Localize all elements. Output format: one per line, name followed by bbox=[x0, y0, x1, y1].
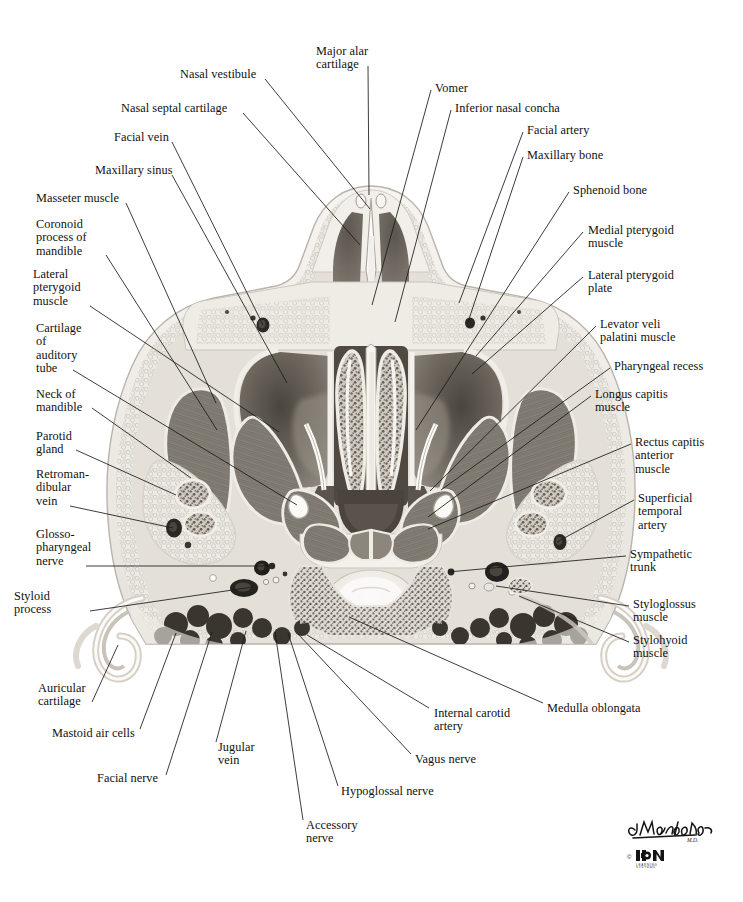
label-stylohyoid-muscle: Stylohyoid muscle bbox=[633, 634, 687, 661]
label-rectus-capitis-anterior-muscle: Rectus capitis anterior muscle bbox=[635, 436, 704, 476]
label-styloid-process: Styloid process bbox=[14, 590, 51, 617]
label-cartilage-of-auditory-tube: Cartilage of auditory tube bbox=[36, 322, 82, 376]
svg-text:©: © bbox=[627, 854, 632, 860]
label-accessory-nerve: Accessory nerve bbox=[306, 819, 358, 846]
label-sphenoid-bone: Sphenoid bone bbox=[573, 184, 647, 197]
anatomy-illustration bbox=[0, 0, 743, 902]
label-nasal-vestibule: Nasal vestibule bbox=[180, 68, 256, 81]
label-nasal-septal-cartilage: Nasal septal cartilage bbox=[121, 102, 227, 115]
label-parotid-gland: Parotid gland bbox=[36, 430, 72, 457]
label-lateral-pterygoid-plate: Lateral pterygoid plate bbox=[588, 269, 674, 296]
label-facial-artery: Facial artery bbox=[527, 124, 589, 137]
label-retromandibular-vein: Retroman- dibular vein bbox=[36, 468, 89, 508]
label-lateral-pterygoid-muscle: Lateral pterygoid muscle bbox=[33, 268, 81, 308]
svg-text:M.D.: M.D. bbox=[686, 837, 698, 843]
label-superficial-temporal-artery: Superficial temporal artery bbox=[638, 492, 693, 532]
label-facial-nerve: Facial nerve bbox=[97, 772, 158, 785]
label-medial-pterygoid-muscle: Medial pterygoid muscle bbox=[588, 224, 674, 251]
label-sympathetic-trunk: Sympathetic trunk bbox=[630, 548, 692, 575]
label-vomer: Vomer bbox=[435, 82, 468, 95]
label-medulla-oblongata: Medulla oblongata bbox=[547, 702, 640, 715]
label-maxillary-sinus: Maxillary sinus bbox=[95, 164, 173, 177]
label-internal-carotid-artery: Internal carotid artery bbox=[434, 707, 510, 734]
label-longus-capitis-muscle: Longus capitis muscle bbox=[595, 388, 668, 415]
label-maxillary-bone: Maxillary bone bbox=[527, 149, 603, 162]
label-glossopharyngeal-nerve: Glosso- pharyngeal nerve bbox=[36, 528, 91, 568]
label-auricular-cartilage: Auricular cartilage bbox=[38, 682, 86, 709]
artist-signature: M.D. © LEARNING SYSTEMS bbox=[625, 814, 721, 868]
label-inferior-nasal-concha: Inferior nasal concha bbox=[455, 102, 560, 115]
label-vagus-nerve: Vagus nerve bbox=[415, 753, 476, 766]
label-levator-veli-palatini-muscle: Levator veli palatini muscle bbox=[600, 318, 676, 345]
label-facial-vein: Facial vein bbox=[114, 131, 169, 144]
label-jugular-vein: Jugular vein bbox=[218, 741, 255, 768]
label-neck-of-mandible: Neck of mandible bbox=[36, 388, 82, 415]
label-styloglossus-muscle: Styloglossus muscle bbox=[633, 598, 696, 625]
label-hypoglossal-nerve: Hypoglossal nerve bbox=[341, 785, 434, 798]
label-coronoid-process-of-mandible: Coronoid process of mandible bbox=[36, 218, 87, 258]
label-major-alar-cartilage: Major alar cartilage bbox=[316, 45, 368, 72]
svg-text:SYSTEMS: SYSTEMS bbox=[636, 866, 656, 868]
label-mastoid-air-cells: Mastoid air cells bbox=[52, 727, 135, 740]
label-pharyngeal-recess: Pharyngeal recess bbox=[614, 360, 703, 373]
label-masseter-muscle: Masseter muscle bbox=[36, 192, 119, 205]
